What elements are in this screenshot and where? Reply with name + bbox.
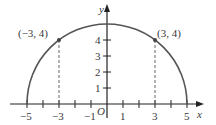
x-tick-label: 1 [120, 110, 126, 122]
origin-label: O [97, 105, 105, 117]
x-tick-label: 5 [184, 110, 190, 122]
x-tick-label: −5 [20, 110, 32, 122]
y-axis-arrow-icon [104, 4, 110, 12]
semicircle-diagram: (−3, 4) (3, 4) −5 −3 −1 1 3 5 1 2 3 4 x … [0, 0, 216, 125]
point-label-right: (3, 4) [157, 27, 181, 40]
y-tick-label: 2 [95, 66, 101, 78]
y-tick-label: 4 [95, 34, 101, 46]
point-label-left: (−3, 4) [18, 27, 48, 40]
y-axis-label: y [98, 3, 104, 15]
y-tick-label: 3 [95, 50, 101, 62]
x-tick-label: 3 [152, 110, 158, 122]
point-neg3-4 [57, 38, 61, 42]
x-axis-label: x [196, 108, 202, 120]
y-tick-label: 1 [95, 82, 101, 94]
x-axis-arrow-icon [196, 101, 204, 107]
x-tick-label: −3 [52, 110, 64, 122]
x-tick-label: −1 [84, 110, 96, 122]
